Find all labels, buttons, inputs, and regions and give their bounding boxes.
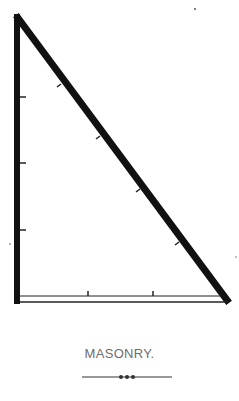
hypotenuse	[18, 18, 227, 300]
scan-specks	[9, 8, 237, 258]
vertical-leg	[14, 14, 20, 304]
masonry-square-illustration	[0, 0, 239, 340]
ornament-divider	[0, 370, 239, 384]
vertical-ticks	[20, 97, 26, 230]
caption-label: MASONRY.	[0, 346, 239, 361]
base-ticks	[88, 291, 153, 296]
hypotenuse-ticks	[57, 84, 179, 245]
